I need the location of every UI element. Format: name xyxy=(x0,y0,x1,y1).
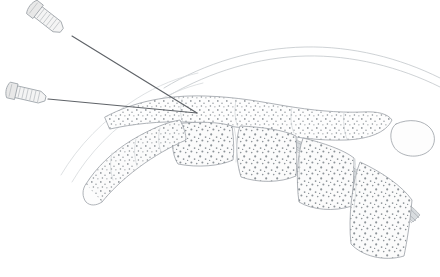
disc-space-1 xyxy=(234,127,237,162)
coccyx-lobe xyxy=(391,121,435,157)
needle-group xyxy=(4,0,197,113)
spinal-injection-figure: Two-needle spinal injection, sagittal lu… xyxy=(0,0,440,277)
needle-lower-hub-body xyxy=(13,85,47,104)
skin-outer-arc xyxy=(164,47,440,88)
needle-upper-shaft xyxy=(72,36,197,113)
illustration-canvas: Two-needle spinal injection, sagittal lu… xyxy=(0,0,440,277)
vertebral-body-chain xyxy=(165,118,424,266)
needle-upper xyxy=(25,0,197,113)
